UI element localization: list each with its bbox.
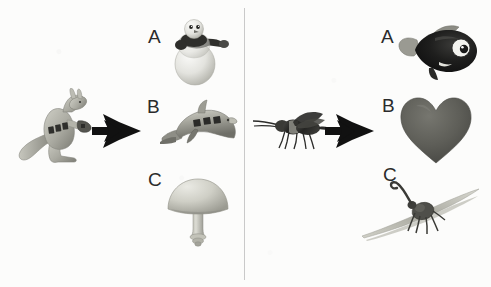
panel-divider (244, 8, 245, 280)
right-choice-a-label: A (381, 27, 394, 46)
left-choice-c-label: C (148, 170, 162, 189)
left-choice-a-label: A (148, 27, 161, 46)
right-panel-arrow-icon (325, 110, 375, 152)
dolphin-object (158, 98, 238, 150)
fish-object (395, 24, 481, 82)
figure-canvas: A (0, 0, 491, 287)
left-panel-arrow-icon (92, 110, 142, 152)
right-choice-b-label: B (382, 96, 395, 115)
weevil-on-grass-object (360, 180, 480, 242)
snowman-object (166, 18, 232, 88)
fly-insect-object (253, 108, 331, 156)
mushroom-object (165, 175, 235, 247)
kangaroo-object (14, 88, 96, 168)
heart-object (398, 94, 474, 166)
